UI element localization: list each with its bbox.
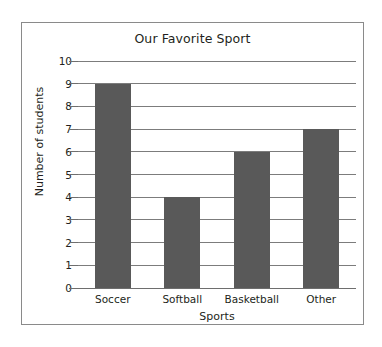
y-tick-mark <box>69 219 78 220</box>
y-tick-mark <box>69 83 78 84</box>
y-tick-mark <box>69 197 78 198</box>
y-axis-tick-labels: 109876543210 <box>42 61 72 288</box>
y-tick-mark <box>69 106 78 107</box>
y-tick-mark <box>69 61 78 62</box>
y-tick-mark <box>69 151 78 152</box>
x-tick-label: Basketball <box>217 293 287 305</box>
x-axis-label: Sports <box>78 310 356 323</box>
y-axis-tick-marks <box>69 61 78 288</box>
chart-figure: Our Favorite Sport Number of students 10… <box>21 22 364 325</box>
x-tick-label: Other <box>287 293 357 305</box>
x-axis-category-labels: SoccerSoftballBasketballOther <box>78 23 356 326</box>
y-tick-mark <box>69 265 78 266</box>
y-tick-mark <box>69 174 78 175</box>
x-tick-label: Softball <box>148 293 218 305</box>
y-tick-mark <box>69 129 78 130</box>
y-tick-mark <box>69 288 78 289</box>
y-tick-mark <box>69 242 78 243</box>
x-tick-label: Soccer <box>78 293 148 305</box>
